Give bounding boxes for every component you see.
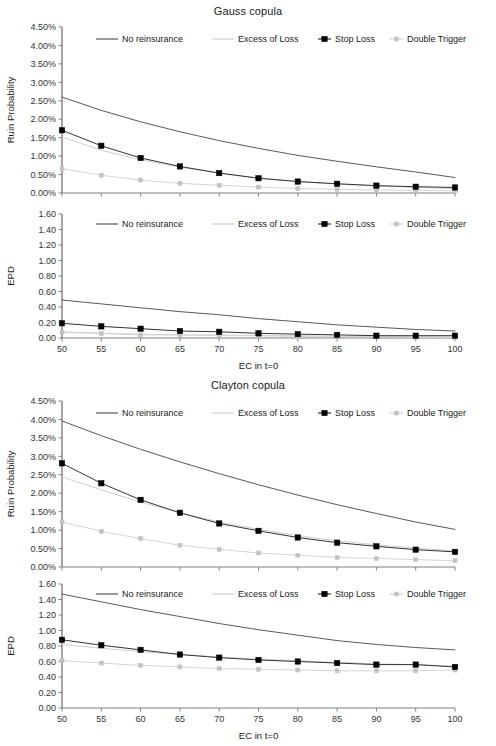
series-marker-stop-loss: [138, 497, 143, 502]
series-marker-double-trigger: [178, 181, 182, 185]
y-tick-label: 0.50%: [30, 544, 56, 554]
y-tick-label: 3.50%: [30, 433, 56, 443]
y-tick-label: 2.50%: [30, 470, 56, 480]
series-marker-stop-loss: [413, 662, 418, 667]
series-marker-double-trigger: [99, 173, 103, 177]
chart-clayton-epd: 0.000.200.400.600.801.001.201.401.605055…: [0, 574, 496, 742]
y-tick-label: 0.60: [38, 287, 56, 297]
x-tick-label: 70: [214, 344, 224, 354]
x-tick-label: 60: [136, 199, 146, 200]
x-tick-label: 65: [175, 344, 185, 354]
legend-label-stop-loss: Stop Loss: [335, 408, 376, 418]
y-tick-label: 1.60: [38, 579, 56, 589]
series-marker-stop-loss: [177, 510, 182, 515]
x-tick-label: 90: [371, 199, 381, 200]
x-tick-label: 95: [411, 714, 421, 724]
legend-label-double-trigger: Double Trigger: [407, 219, 466, 229]
legend-label-stop-loss: Stop Loss: [335, 34, 376, 44]
series-marker-stop-loss: [295, 659, 300, 664]
series-marker-stop-loss: [374, 333, 379, 338]
series-marker-stop-loss: [334, 660, 339, 665]
x-tick-label: 80: [293, 199, 303, 200]
y-tick-label: 4.50%: [30, 22, 56, 32]
x-axis-title: EC in t=0: [239, 360, 278, 371]
series-marker-double-trigger: [139, 178, 143, 182]
x-tick-label: 75: [253, 714, 263, 724]
y-tick-label: 0.20: [38, 688, 56, 698]
series-marker-stop-loss: [59, 128, 64, 133]
x-tick-label: 50: [57, 344, 67, 354]
chart-title: Clayton copula: [0, 378, 496, 393]
series-marker-stop-loss: [138, 155, 143, 160]
y-axis-title: Ruin Probability: [5, 76, 16, 143]
y-tick-label: 0.80: [38, 271, 56, 281]
y-tick-label: 3.50%: [30, 59, 56, 69]
y-tick-label: 1.00: [38, 256, 56, 266]
legend-label-double-trigger: Double Trigger: [407, 34, 466, 44]
x-tick-label: 60: [136, 714, 146, 724]
series-marker-double-trigger: [296, 187, 300, 191]
y-tick-label: 1.50%: [30, 133, 56, 143]
chart-canvas: 0.00%0.50%1.00%1.50%2.00%2.50%3.00%3.50%…: [0, 19, 496, 200]
series-marker-double-trigger: [296, 553, 300, 557]
y-tick-label: 2.00%: [30, 488, 56, 498]
y-tick-label: 0.50%: [30, 170, 56, 180]
y-tick-label: 1.00%: [30, 525, 56, 535]
series-marker-stop-loss: [334, 540, 339, 545]
x-tick-label: 60: [136, 344, 146, 354]
series-line-stop-loss: [62, 463, 455, 552]
legend-label-excess-of-loss: Excess of Loss: [238, 219, 299, 229]
series-marker-stop-loss: [217, 655, 222, 660]
y-tick-label: 1.40: [38, 225, 56, 235]
series-marker-stop-loss: [374, 183, 379, 188]
x-tick-label: 55: [96, 344, 106, 354]
legend-swatch-marker: [395, 411, 399, 415]
chart-title: Gauss copula: [0, 4, 496, 19]
legend-label-stop-loss: Stop Loss: [335, 589, 376, 599]
series-marker-stop-loss: [413, 547, 418, 552]
y-tick-label: 4.50%: [30, 396, 56, 406]
y-tick-label: 1.00: [38, 626, 56, 636]
series-marker-stop-loss: [334, 181, 339, 186]
plot-area: 0.000.200.400.600.801.001.201.401.605055…: [0, 204, 496, 376]
series-marker-stop-loss: [59, 637, 64, 642]
x-tick-label: 65: [175, 714, 185, 724]
series-marker-stop-loss: [413, 333, 418, 338]
series-marker-stop-loss: [374, 544, 379, 549]
series-marker-double-trigger: [414, 558, 418, 562]
y-tick-label: 0.40: [38, 302, 56, 312]
legend-swatch-marker: [322, 591, 327, 596]
series-marker-double-trigger: [99, 529, 103, 533]
series-marker-stop-loss: [334, 332, 339, 337]
y-tick-label: 0.00%: [30, 562, 56, 572]
series-marker-double-trigger: [374, 669, 378, 673]
series-marker-stop-loss: [452, 333, 457, 338]
x-tick-label: 75: [253, 199, 263, 200]
series-marker-double-trigger: [335, 669, 339, 673]
x-tick-label: 100: [447, 344, 462, 354]
series-marker-double-trigger: [217, 547, 221, 551]
series-marker-double-trigger: [374, 557, 378, 561]
series-marker-stop-loss: [452, 664, 457, 669]
y-tick-label: 2.50%: [30, 96, 56, 106]
legend-label-excess-of-loss: Excess of Loss: [238, 408, 299, 418]
legend-label-excess-of-loss: Excess of Loss: [238, 34, 299, 44]
y-tick-label: 3.00%: [30, 452, 56, 462]
y-tick-label: 0.00: [38, 703, 56, 713]
x-tick-label: 50: [57, 199, 67, 200]
legend-label-no-reinsurance: No reinsurance: [122, 589, 183, 599]
y-tick-label: 0.60: [38, 657, 56, 667]
x-tick-label: 90: [371, 714, 381, 724]
x-tick-label: 95: [411, 199, 421, 200]
series-marker-stop-loss: [295, 331, 300, 336]
series-line-no-reinsurance: [62, 421, 455, 529]
chart-gauss-ruin: Gauss copula 0.00%0.50%1.00%1.50%2.00%2.…: [0, 4, 496, 200]
x-tick-label: 85: [332, 714, 342, 724]
legend-swatch-marker: [322, 221, 327, 226]
legend-label-no-reinsurance: No reinsurance: [122, 219, 183, 229]
series-marker-stop-loss: [452, 549, 457, 554]
series-marker-stop-loss: [413, 184, 418, 189]
chart-canvas: 0.00%0.50%1.00%1.50%2.00%2.50%3.00%3.50%…: [0, 393, 496, 574]
x-tick-label: 70: [214, 199, 224, 200]
plot-area: 0.000.200.400.600.801.001.201.401.605055…: [0, 574, 496, 742]
